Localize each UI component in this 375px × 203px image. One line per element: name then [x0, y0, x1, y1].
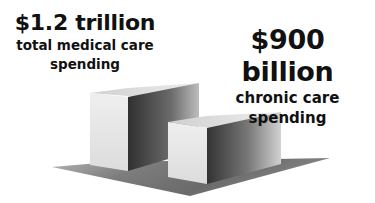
bar-chronic-front [168, 122, 207, 184]
label-chronic-spending: $900 billion chronic care spending [200, 24, 375, 128]
label-total-spending: $1.2 trillion total medical care spendin… [10, 10, 160, 74]
total-amount: $1.2 trillion [10, 10, 160, 36]
total-desc-line2: spending [10, 55, 160, 74]
chronic-desc-line1: chronic care [200, 88, 375, 108]
chronic-desc-line2: spending [200, 108, 375, 128]
bar-total-front [90, 93, 128, 171]
chronic-amount: $900 billion [200, 24, 375, 88]
total-desc-line1: total medical care [10, 36, 160, 55]
